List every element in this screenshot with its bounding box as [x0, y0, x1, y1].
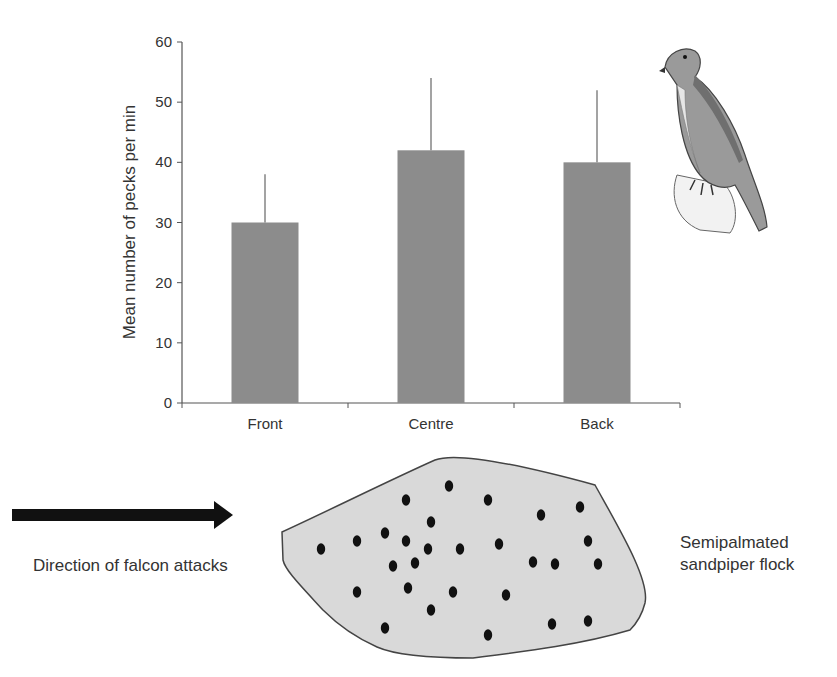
- bar-centre: [398, 150, 465, 403]
- sandpiper-dot: [317, 543, 325, 555]
- sandpiper-dot: [404, 582, 412, 594]
- y-tick-label: 40: [155, 153, 172, 170]
- sandpiper-dot: [427, 604, 435, 616]
- sandpiper-dot: [484, 494, 492, 506]
- x-tick-label: Front: [247, 415, 283, 432]
- sandpiper-dot: [353, 586, 361, 598]
- y-axis: 0102030405060: [155, 33, 182, 411]
- y-tick-label: 50: [155, 93, 172, 110]
- sandpiper-dot: [381, 527, 389, 539]
- sandpiper-dot: [594, 558, 602, 570]
- y-tick-label: 20: [155, 274, 172, 291]
- sandpiper-dot: [584, 535, 592, 547]
- sandpiper-dot: [551, 558, 559, 570]
- y-axis-label: Mean number of pecks per min: [120, 105, 139, 339]
- sandpiper-dot: [402, 535, 410, 547]
- sandpiper-dot: [381, 622, 389, 634]
- flock-label-line1: Semipalmated: [680, 532, 789, 554]
- sandpiper-dot: [445, 480, 453, 492]
- sandpiper-dot: [548, 618, 556, 630]
- sandpiper-dot: [389, 560, 397, 572]
- sandpiper-dot: [427, 516, 435, 528]
- y-tick-label: 0: [164, 394, 172, 411]
- sandpiper-flock: [282, 457, 646, 658]
- sandpiper-dot: [424, 543, 432, 555]
- x-tick-label: Back: [580, 415, 614, 432]
- x-tick-label: Centre: [408, 415, 453, 432]
- bar-back: [564, 162, 631, 403]
- falcon-illustration: [659, 49, 767, 233]
- y-tick-label: 10: [155, 334, 172, 351]
- y-tick-label: 30: [155, 214, 172, 231]
- sandpiper-dot: [484, 629, 492, 641]
- sandpiper-dot: [529, 556, 537, 568]
- sandpiper-dot: [449, 586, 457, 598]
- sandpiper-dot: [502, 589, 510, 601]
- sandpiper-dot: [411, 557, 419, 569]
- sandpiper-dot: [576, 501, 584, 513]
- bar-front: [232, 223, 299, 404]
- sandpiper-dot: [495, 538, 503, 550]
- x-axis: FrontCentreBack: [182, 403, 680, 432]
- sandpiper-dot: [402, 494, 410, 506]
- sandpiper-dot: [537, 509, 545, 521]
- attack-direction-arrow: [12, 501, 233, 529]
- bars: [232, 78, 631, 403]
- sandpiper-dot: [353, 535, 361, 547]
- y-tick-label: 60: [155, 33, 172, 50]
- sandpiper-dot: [456, 543, 464, 555]
- sandpiper-dot: [584, 615, 592, 627]
- arrow-label: Direction of falcon attacks: [33, 555, 228, 577]
- flock-label-line2: sandpiper flock: [680, 554, 794, 576]
